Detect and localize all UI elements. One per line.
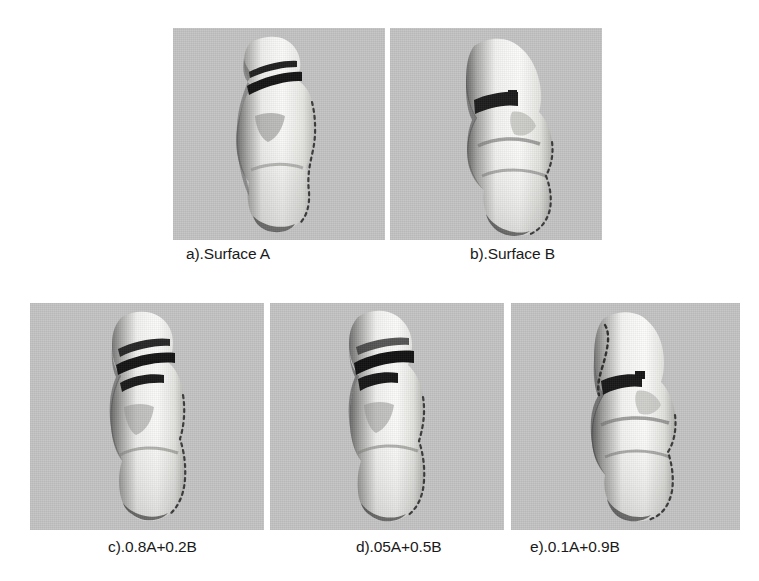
panel-d-image [270,303,504,530]
caption-panel-c: c).0.8A+0.2B [108,538,197,556]
panel-b-surface-b [390,28,602,240]
torso-surface-render-c [30,303,264,530]
panel-d-blend-05a-05b [270,303,504,530]
figure-root: a).Surface A [0,0,759,581]
notch-block-e [635,371,645,379]
panel-a-surface-a [173,28,385,240]
panel-a-image [173,28,385,240]
panel-e-blend-01a-09b [511,303,740,530]
caption-panel-d: d).05A+0.5B [356,538,442,556]
panel-c-blend-08a-02b [30,303,264,530]
torso-surface-render-a [173,28,385,240]
panel-c-image [30,303,264,530]
caption-panel-e: e).0.1A+0.9B [530,538,620,556]
torso-surface-render-b [390,28,602,240]
notch-block-b [508,90,517,97]
torso-surface-render-e [511,303,740,530]
torso-surface-render-d [270,303,504,530]
panel-b-image [390,28,602,240]
notch-block-d [388,373,398,379]
panel-e-image [511,303,740,530]
caption-panel-a: a).Surface A [186,245,270,263]
caption-panel-b: b).Surface B [470,245,555,263]
